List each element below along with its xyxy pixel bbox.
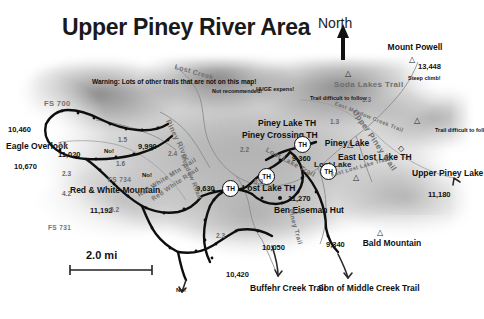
elevation-9990: 9,990 (138, 142, 157, 151)
map-canvas: Upper Piney River Area North 2.0 mi Warn… (0, 0, 484, 319)
scale-bar-icon (70, 265, 152, 275)
peak-marker-icon-bald-mountain: △ (377, 229, 383, 237)
north-label: North (318, 15, 352, 31)
note-steep-climb: Steep climb! (408, 75, 440, 82)
no-marker-west: No! (104, 148, 114, 154)
place-label-mount-powell: Mount Powell (382, 42, 448, 52)
trailhead-marker-piney-lake[interactable]: TH (294, 136, 311, 153)
trailhead-label-lost-lake: Lost Lake TH (242, 183, 294, 193)
trailhead-label-piney-crossing: Piney Crossing TH (242, 130, 296, 140)
mileage-0-9: 0.9 (254, 178, 263, 185)
mileage-1-3: 1.3 (330, 118, 339, 125)
elevation-upper-piney-lake: 11,180 (428, 190, 451, 199)
mileage-5-2: 5.2 (110, 206, 119, 213)
map-warning-note: Warning: Lots of other trails that are n… (92, 78, 190, 86)
trailhead-marker-lost-lake[interactable]: TH (222, 180, 239, 197)
trailhead-label-piney-lake: Piney Lake TH (258, 118, 310, 128)
elevation-10460: 10,460 (8, 125, 31, 134)
peak-marker-icon-unnamed-east: △ (414, 117, 420, 125)
mileage-4-2: 4.2 (62, 190, 71, 197)
place-label-eagle-overlook: Eagle Overlook (6, 141, 54, 151)
road-label-fs-734: FS 734 (108, 176, 131, 183)
place-label-bald-mountain: Bald Mountain (358, 238, 426, 248)
scale-label: 2.0 mi (86, 249, 117, 261)
mileage-2-3b: 2.3 (216, 232, 225, 239)
mileage-3-3: 3.3 (362, 96, 371, 103)
mileage-1-5: 1.5 (118, 136, 127, 143)
peak-marker-icon-mount-powell: △ (409, 56, 415, 64)
hut-marker-icon-ben-eiseman (278, 196, 282, 200)
elevation-9340: 9,340 (326, 240, 345, 249)
place-label-upper-piney-lake: Upper Piney Lake (412, 168, 478, 178)
peak-marker-icon-unnamed-north: △ (345, 70, 351, 78)
place-label-ben-eiseman-hut: Ben Eiseman Hut (274, 205, 342, 215)
place-label-red-white-mountain: Red & White Mountain (70, 185, 142, 195)
exit-trail-label-buffehr-creek: Buffehr Creek Trail (250, 283, 308, 293)
note-trail-difficult-east: Trail difficult to follow (435, 127, 477, 134)
mileage-2-3a: 2.3 (62, 170, 71, 177)
note-trail-difficult-northwest: Trail difficult to follow (310, 95, 350, 102)
page-title: Upper Piney River Area (62, 14, 310, 41)
mileage-2-4: 2.4 (168, 150, 177, 157)
elevation-10420: 10,420 (226, 270, 249, 279)
trail-label-soda-lakes: Soda Lakes Trail (334, 80, 404, 89)
note-huge-expens: HUGE expens! (252, 86, 298, 93)
no-marker-south: No! (176, 287, 186, 293)
mileage-2-2: 2.2 (240, 146, 249, 153)
peak-marker-icon-unnamed-southeast: △ (353, 174, 359, 182)
elevation-11020: 11,020 (58, 150, 81, 159)
elevation-mount-powell: 13,448 (418, 62, 441, 71)
place-label-piney-lake: Piney Lake (320, 138, 374, 148)
road-label-fs-731: FS 731 (48, 224, 71, 231)
mileage-2-1: 2.1 (58, 141, 67, 148)
exit-trail-label-son-of-middle-creek: Son of Middle Creek Trail (318, 283, 390, 293)
elevation-ben-eiseman-hut: 11,270 (288, 194, 311, 203)
elevation-10050: 10,050 (262, 243, 285, 252)
mileage-1-6: 1.6 (116, 160, 125, 167)
elevation-eagle-overlook: 10,670 (14, 162, 37, 171)
note-not-recommended: Not recommended! (212, 88, 256, 95)
no-marker-center: No! (142, 172, 152, 178)
mileage-1-4: 1.4 (292, 208, 301, 215)
road-label-fs-700: FS 700 (44, 99, 71, 108)
